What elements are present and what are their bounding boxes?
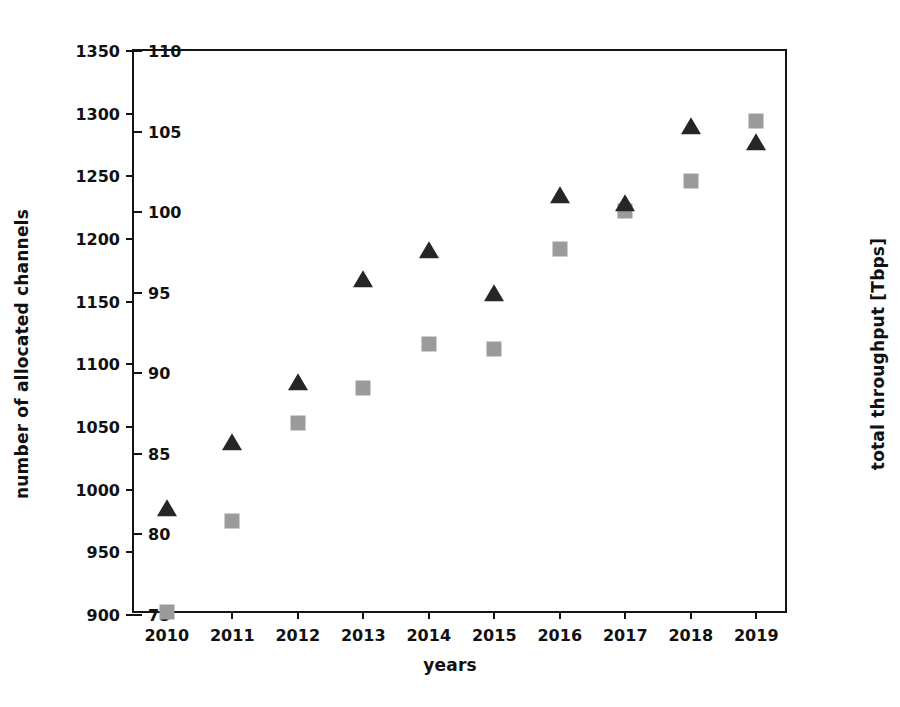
tick-label: 2010 xyxy=(144,626,189,645)
data-point-square xyxy=(356,381,371,396)
y-axis-left-label: number of allocated channels xyxy=(12,174,32,534)
data-point-square xyxy=(421,337,436,352)
data-point-square xyxy=(225,514,240,529)
data-point-square xyxy=(290,416,305,431)
tick-label: 2012 xyxy=(275,626,320,645)
tick-label: 1050 xyxy=(75,418,120,437)
y-axis-right-label: total throughput [Tbps] xyxy=(868,174,888,534)
tick-label: 2013 xyxy=(341,626,386,645)
tick-mark xyxy=(690,611,692,619)
data-point-square xyxy=(552,242,567,257)
tick-label: 950 xyxy=(87,543,120,562)
chart-figure: number of allocated channels total throu… xyxy=(0,0,900,707)
tick-label: 105 xyxy=(148,122,181,141)
tick-label: 110 xyxy=(148,42,181,61)
tick-mark xyxy=(134,614,142,616)
tick-label: 2014 xyxy=(406,626,451,645)
tick-label: 2019 xyxy=(734,626,779,645)
data-point-triangle xyxy=(353,270,373,287)
tick-mark xyxy=(126,363,134,365)
tick-label: 1000 xyxy=(75,480,120,499)
tick-label: 2016 xyxy=(537,626,582,645)
data-point-triangle xyxy=(615,194,635,211)
data-point-square xyxy=(749,114,764,129)
data-point-square xyxy=(487,342,502,357)
tick-mark xyxy=(126,426,134,428)
tick-label: 1350 xyxy=(75,42,120,61)
tick-label: 2017 xyxy=(603,626,648,645)
x-axis-label: years xyxy=(0,655,900,675)
tick-mark xyxy=(134,131,142,133)
tick-mark xyxy=(126,238,134,240)
data-point-square xyxy=(159,605,174,620)
data-point-triangle xyxy=(746,133,766,150)
tick-label: 95 xyxy=(148,283,170,302)
tick-label: 90 xyxy=(148,364,170,383)
tick-mark xyxy=(134,211,142,213)
data-point-triangle xyxy=(157,499,177,516)
tick-label: 1150 xyxy=(75,292,120,311)
tick-label: 2011 xyxy=(210,626,255,645)
tick-mark xyxy=(126,113,134,115)
tick-mark xyxy=(134,292,142,294)
tick-mark xyxy=(126,301,134,303)
tick-mark xyxy=(559,611,561,619)
tick-label: 85 xyxy=(148,444,170,463)
tick-mark xyxy=(362,611,364,619)
tick-mark xyxy=(126,489,134,491)
data-point-triangle xyxy=(288,373,308,390)
tick-label: 1200 xyxy=(75,230,120,249)
tick-mark xyxy=(126,614,134,616)
tick-mark xyxy=(231,611,233,619)
tick-label: 1100 xyxy=(75,355,120,374)
tick-label: 100 xyxy=(148,203,181,222)
tick-label: 2018 xyxy=(668,626,713,645)
tick-mark xyxy=(428,611,430,619)
tick-mark xyxy=(134,50,142,52)
tick-mark xyxy=(126,50,134,52)
tick-mark xyxy=(126,175,134,177)
tick-label: 2015 xyxy=(472,626,517,645)
data-point-square xyxy=(683,174,698,189)
tick-mark xyxy=(134,453,142,455)
data-point-triangle xyxy=(550,186,570,203)
tick-label: 900 xyxy=(87,606,120,625)
plot-area: 90095010001050110011501200125013001350 7… xyxy=(132,49,787,613)
data-point-triangle xyxy=(484,284,504,301)
tick-mark xyxy=(134,372,142,374)
tick-mark xyxy=(493,611,495,619)
data-point-triangle xyxy=(419,241,439,258)
tick-mark xyxy=(126,551,134,553)
tick-mark xyxy=(755,611,757,619)
tick-mark xyxy=(297,611,299,619)
tick-mark xyxy=(134,533,142,535)
data-point-triangle xyxy=(222,433,242,450)
data-point-triangle xyxy=(681,117,701,134)
tick-mark xyxy=(624,611,626,619)
tick-label: 1300 xyxy=(75,104,120,123)
tick-label: 1250 xyxy=(75,167,120,186)
tick-label: 80 xyxy=(148,525,170,544)
